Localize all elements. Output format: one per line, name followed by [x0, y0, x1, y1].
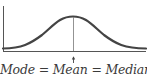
mode-mean-median-label: Mode = Mean = Median — [0, 62, 147, 77]
normal-curve — [3, 17, 146, 49]
